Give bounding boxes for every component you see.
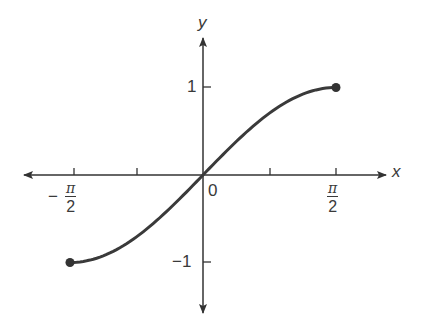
pi-numerator: π bbox=[65, 181, 76, 197]
y-tick-label-1: 1 bbox=[187, 78, 196, 95]
x-tick-label-half-pi: π 2 bbox=[327, 181, 338, 215]
sine-chart bbox=[0, 0, 426, 326]
x-tick-label-neg-sign: − bbox=[48, 187, 58, 207]
endpoint-dot-left bbox=[66, 258, 75, 267]
y-axis-label: y bbox=[198, 14, 207, 31]
x-axis-label: x bbox=[392, 163, 401, 180]
y-tick-label-neg1: −1 bbox=[172, 253, 191, 270]
two-denominator: 2 bbox=[328, 197, 337, 215]
origin-label: 0 bbox=[208, 182, 217, 199]
x-tick-label-neg-half-pi: π 2 bbox=[65, 181, 76, 215]
pi-numerator: π bbox=[327, 181, 338, 197]
two-denominator: 2 bbox=[66, 197, 75, 215]
endpoint-dot-right bbox=[332, 83, 341, 92]
